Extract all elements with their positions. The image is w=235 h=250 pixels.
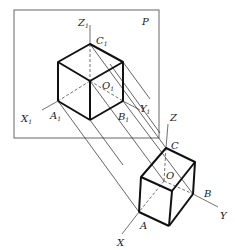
cube-projection-diagram: P Z1 C1 O1 Y1 X1 A1 B1 Z C O B Y X A xyxy=(0,0,235,250)
label-z1: Z1 xyxy=(77,17,89,29)
label-o: O xyxy=(166,170,174,181)
label-o1: O1 xyxy=(102,80,114,92)
label-b1: B1 xyxy=(117,111,129,123)
label-x1: X1 xyxy=(20,113,32,125)
label-c: C xyxy=(171,140,179,151)
label-y: Y xyxy=(220,210,228,221)
label-a1: A1 xyxy=(49,110,61,122)
label-a: A xyxy=(139,220,147,231)
projected-cube xyxy=(58,44,123,120)
label-z: Z xyxy=(169,112,178,123)
label-b: B xyxy=(203,188,211,199)
label-plane-p: P xyxy=(141,16,149,27)
label-c1: C1 xyxy=(96,35,107,47)
label-y1: Y1 xyxy=(140,103,150,115)
projection-rays xyxy=(58,44,193,212)
label-x: X xyxy=(116,237,125,248)
